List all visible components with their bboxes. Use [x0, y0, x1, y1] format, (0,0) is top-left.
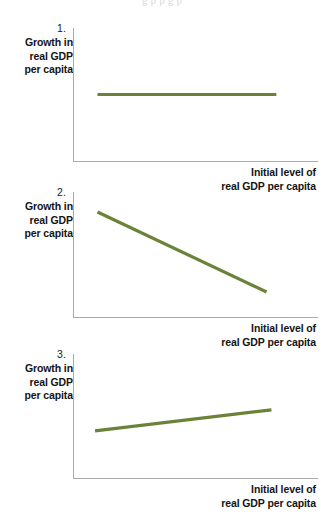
y-axis-label-line-1: Growth in	[5, 362, 73, 376]
x-axis-label-line-1: Initial level of	[136, 322, 316, 336]
chart-3-x-axis-line	[73, 478, 318, 479]
y-axis-label-line-2: real GDP	[5, 214, 73, 228]
chart-2-number: 2.	[57, 186, 66, 198]
chart-3-x-axis-label: Initial level of real GDP per capita	[136, 483, 316, 510]
y-axis-label-line-1: Growth in	[5, 36, 73, 50]
chart-1-number: 1.	[57, 22, 66, 34]
x-axis-label-line-1: Initial level of	[136, 483, 316, 497]
y-axis-label-line-3: per capita	[5, 63, 73, 77]
chart-2-x-axis-line	[73, 317, 318, 318]
chart-3-plot	[73, 354, 318, 478]
y-axis-label-line-1: Growth in	[5, 200, 73, 214]
chart-1-x-axis-line	[73, 161, 318, 162]
chart-2-y-axis-label: Growth in real GDP per capita	[5, 200, 73, 241]
chart-1-y-axis-label: Growth in real GDP per capita	[5, 36, 73, 77]
chart-panel-2: 2. Growth in real GDP per capita Initial…	[0, 176, 324, 344]
y-axis-label-line-3: per capita	[5, 227, 73, 241]
chart-3-trend-line	[95, 410, 271, 431]
chart-1-plot	[73, 28, 318, 161]
chart-panel-1: 1. Growth in real GDP per capita Initial…	[0, 0, 324, 186]
y-axis-label-line-2: real GDP	[5, 376, 73, 390]
chart-panel-3: 3. Growth in real GDP per capita Initial…	[0, 340, 324, 518]
y-axis-label-line-2: real GDP	[5, 50, 73, 64]
chart-3-number: 3.	[57, 348, 66, 360]
x-axis-label-line-2: real GDP per capita	[136, 497, 316, 511]
chart-3-y-axis-label: Growth in real GDP per capita	[5, 362, 73, 403]
chart-2-trend-line	[98, 212, 267, 292]
chart-2-plot	[73, 192, 318, 317]
y-axis-label-line-3: per capita	[5, 389, 73, 403]
